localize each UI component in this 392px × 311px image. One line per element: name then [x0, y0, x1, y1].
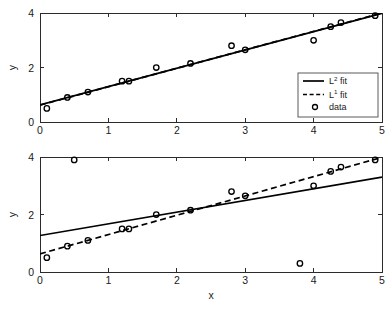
x-tick-label: 5 — [379, 274, 385, 286]
data-point-marker — [72, 157, 77, 162]
panel-bottom: 012345024yx — [6, 151, 385, 301]
x-tick-label: 2 — [174, 274, 180, 286]
data-point-marker — [154, 65, 159, 70]
x-tick-label: 1 — [105, 274, 111, 286]
legend-label-l1-fit: L1 fit — [329, 88, 347, 99]
y-tick-label: 4 — [28, 7, 34, 19]
y-tick-label: 0 — [28, 116, 34, 128]
x-tick-label: 5 — [379, 124, 385, 136]
x-tick-label: 0 — [37, 274, 43, 286]
y-tick-label: 2 — [28, 62, 34, 74]
x-tick-label: 4 — [311, 124, 317, 136]
legend: L2 fitL1 fitdata — [298, 73, 378, 117]
data-point-marker — [119, 226, 124, 231]
legend-label-l2-fit: L2 fit — [329, 75, 347, 86]
plot-svg: 012345024y012345024yxL2 fitL1 fitdata — [0, 0, 392, 311]
legend-label-tail: fit — [337, 90, 347, 100]
x-tick-label: 3 — [242, 274, 248, 286]
x-tick-label: 3 — [242, 124, 248, 136]
data-point-marker — [44, 106, 49, 111]
data-point-marker — [311, 38, 316, 43]
data-point-marker — [229, 43, 234, 48]
x-tick-label: 1 — [105, 124, 111, 136]
x-tick-label: 2 — [174, 124, 180, 136]
fit-line-l1 — [40, 157, 382, 254]
data-points — [44, 157, 378, 266]
legend-label-data: data — [329, 102, 347, 112]
y-axis-label: y — [6, 64, 18, 70]
legend-label-tail: fit — [337, 76, 347, 86]
y-tick-label: 4 — [28, 151, 34, 163]
data-point-marker — [229, 189, 234, 194]
y-tick-label: 0 — [28, 266, 34, 278]
data-point-marker — [297, 261, 302, 266]
x-tick-label: 0 — [37, 124, 43, 136]
x-axis-label: x — [208, 289, 214, 301]
figure-container: 012345024y012345024yxL2 fitL1 fitdata — [0, 0, 392, 311]
fit-lines — [40, 157, 382, 254]
x-tick-label: 4 — [311, 274, 317, 286]
data-point-marker — [44, 255, 49, 260]
y-tick-label: 2 — [28, 209, 34, 221]
y-axis-label: y — [6, 211, 18, 217]
data-point-marker — [311, 183, 316, 188]
